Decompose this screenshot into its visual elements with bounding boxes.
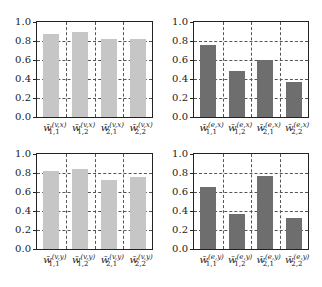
x-tick-label: w̄(e,x)1,2 bbox=[223, 121, 251, 136]
y-tick-mark bbox=[190, 22, 194, 23]
bar bbox=[72, 169, 88, 249]
grid-line-vertical bbox=[280, 22, 281, 117]
label-base: w̄ bbox=[200, 254, 209, 265]
bar bbox=[101, 39, 117, 117]
y-tick-mark bbox=[33, 117, 37, 118]
x-tick-label: w̄(v,y)1,2 bbox=[66, 253, 94, 268]
grid-line-vertical bbox=[280, 154, 281, 249]
label-base: w̄ bbox=[200, 122, 209, 133]
y-tick-mark bbox=[33, 41, 37, 42]
y-tick-mark bbox=[190, 211, 194, 212]
bar bbox=[286, 218, 302, 249]
y-tick-mark bbox=[190, 60, 194, 61]
x-tick-label: w̄(e,y)2,1 bbox=[251, 253, 279, 268]
y-tick-mark bbox=[33, 211, 37, 212]
label-base: w̄ bbox=[43, 254, 52, 265]
label-base: w̄ bbox=[101, 122, 110, 133]
x-tick-label: w̄(v,y)2,1 bbox=[95, 253, 123, 268]
x-tick-label: w̄(v,x)2,1 bbox=[95, 121, 123, 136]
x-tick-label: w̄(v,x)1,2 bbox=[66, 121, 94, 136]
y-tick-mark bbox=[33, 154, 37, 155]
x-tick-label: w̄(v,x)1,1 bbox=[37, 121, 65, 136]
y-tick-label: 1.0 bbox=[162, 17, 188, 27]
x-tick-label: w̄(e,x)1,1 bbox=[194, 121, 222, 136]
y-tick-mark bbox=[190, 173, 194, 174]
x-tick-label: w̄(v,y)1,1 bbox=[37, 253, 65, 268]
bar bbox=[286, 82, 302, 117]
grid-line-vertical bbox=[66, 22, 67, 117]
grid-line-vertical bbox=[95, 154, 96, 249]
y-tick-label: 0.6 bbox=[162, 55, 188, 65]
label-base: w̄ bbox=[285, 254, 294, 265]
grid-line-vertical bbox=[123, 154, 124, 249]
label-base: w̄ bbox=[101, 254, 110, 265]
y-tick-label: 0.4 bbox=[162, 74, 188, 84]
bar bbox=[43, 34, 59, 117]
y-tick-label: 0.0 bbox=[162, 244, 188, 254]
x-tick-label: w̄(e,y)1,2 bbox=[223, 253, 251, 268]
label-base: w̄ bbox=[72, 254, 81, 265]
y-tick-mark bbox=[33, 98, 37, 99]
x-tick-label: w̄(e,x)2,2 bbox=[280, 121, 308, 136]
y-tick-mark bbox=[33, 60, 37, 61]
x-tick-label: w̄(e,x)2,1 bbox=[251, 121, 279, 136]
label-base: w̄ bbox=[257, 254, 266, 265]
bar bbox=[200, 45, 216, 117]
grid-line-vertical bbox=[66, 154, 67, 249]
y-tick-label: 0.8 bbox=[5, 168, 31, 178]
x-tick-label: w̄(v,y)2,2 bbox=[124, 253, 152, 268]
y-tick-mark bbox=[190, 249, 194, 250]
y-tick-mark bbox=[190, 98, 194, 99]
bar bbox=[43, 171, 59, 249]
y-tick-label: 0.8 bbox=[162, 168, 188, 178]
y-tick-label: 0.4 bbox=[5, 206, 31, 216]
x-tick-label: w̄(e,y)2,2 bbox=[280, 253, 308, 268]
label-base: w̄ bbox=[43, 122, 52, 133]
y-tick-label: 1.0 bbox=[5, 17, 31, 27]
y-tick-label: 0.0 bbox=[162, 112, 188, 122]
y-tick-mark bbox=[33, 249, 37, 250]
label-base: w̄ bbox=[228, 122, 237, 133]
grid-line-vertical bbox=[95, 22, 96, 117]
y-tick-mark bbox=[190, 192, 194, 193]
y-tick-mark bbox=[190, 154, 194, 155]
y-tick-label: 0.4 bbox=[5, 74, 31, 84]
label-base: w̄ bbox=[72, 122, 81, 133]
y-tick-mark bbox=[33, 79, 37, 80]
y-tick-label: 0.6 bbox=[162, 187, 188, 197]
y-tick-label: 0.4 bbox=[162, 206, 188, 216]
bar bbox=[257, 60, 273, 117]
bar bbox=[72, 32, 88, 118]
y-tick-label: 0.2 bbox=[162, 93, 188, 103]
y-tick-mark bbox=[190, 41, 194, 42]
y-tick-label: 0.2 bbox=[162, 225, 188, 235]
plot-area bbox=[36, 21, 153, 118]
x-tick-label: w̄(v,x)2,2 bbox=[124, 121, 152, 136]
plot-area bbox=[193, 21, 309, 118]
plot-area bbox=[193, 153, 309, 250]
y-tick-label: 0.0 bbox=[5, 244, 31, 254]
y-tick-mark bbox=[33, 173, 37, 174]
grid-line-vertical bbox=[123, 22, 124, 117]
bar bbox=[200, 187, 216, 249]
y-tick-label: 0.2 bbox=[5, 225, 31, 235]
label-base: w̄ bbox=[129, 254, 138, 265]
bar bbox=[229, 214, 245, 249]
grid-line-vertical bbox=[223, 154, 224, 249]
bar bbox=[130, 177, 146, 249]
x-tick-label: w̄(e,y)1,1 bbox=[194, 253, 222, 268]
label-base: w̄ bbox=[129, 122, 138, 133]
y-tick-mark bbox=[33, 230, 37, 231]
y-tick-mark bbox=[190, 79, 194, 80]
y-tick-mark bbox=[33, 22, 37, 23]
y-tick-label: 0.6 bbox=[5, 55, 31, 65]
bar bbox=[130, 39, 146, 117]
y-tick-label: 0.8 bbox=[5, 36, 31, 46]
label-base: w̄ bbox=[228, 254, 237, 265]
y-tick-label: 1.0 bbox=[162, 149, 188, 159]
y-tick-mark bbox=[190, 230, 194, 231]
grid-line-vertical bbox=[251, 22, 252, 117]
bar bbox=[101, 180, 117, 249]
bar bbox=[257, 176, 273, 249]
plot-area bbox=[36, 153, 153, 250]
